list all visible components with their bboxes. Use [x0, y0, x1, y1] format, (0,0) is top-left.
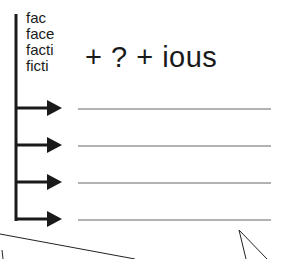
arrow-icon	[16, 211, 62, 227]
arrow-icon	[16, 100, 62, 116]
worksheet-diagram	[0, 0, 286, 259]
bubble-pointer-line	[239, 230, 267, 259]
arrow-icon	[16, 137, 62, 153]
bubble-pointer-line	[239, 230, 246, 259]
bubble-edge-line	[0, 234, 135, 259]
bubble-edge-line	[2, 250, 3, 259]
arrow-icon	[16, 174, 62, 190]
